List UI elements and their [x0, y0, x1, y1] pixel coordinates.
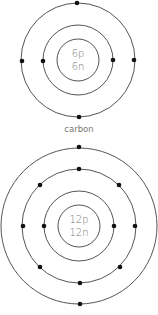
carbon-shell-1 — [43, 25, 113, 95]
electron — [38, 265, 43, 270]
electron — [118, 265, 123, 270]
bohr-diagrams: 6p 6n carbon 12p 12n — [0, 0, 158, 315]
electron — [111, 58, 116, 63]
magnesium-atom: 12p 12n — [1, 145, 157, 307]
magnesium-shell-1 — [44, 191, 114, 261]
electron — [41, 59, 46, 64]
carbon-nucleus — [57, 39, 99, 81]
electron — [38, 183, 43, 188]
electron — [133, 224, 138, 229]
electron — [78, 281, 83, 286]
carbon-shell-2 — [21, 3, 135, 117]
electron — [75, 1, 80, 6]
magnesium-nucleus — [58, 205, 100, 247]
electron — [117, 183, 122, 188]
magnesium-neutrons: 12n — [69, 227, 88, 238]
electron — [132, 58, 137, 63]
carbon-label: carbon — [64, 124, 93, 134]
carbon-protons: 6p — [72, 48, 85, 59]
electron — [77, 167, 82, 172]
carbon-neutrons: 6n — [72, 61, 85, 72]
electron — [78, 302, 83, 307]
magnesium-protons: 12p — [69, 214, 88, 225]
electron — [77, 115, 82, 120]
carbon-atom: 6p 6n carbon — [20, 1, 137, 134]
electron — [112, 224, 117, 229]
electron — [20, 59, 25, 64]
electron — [42, 224, 47, 229]
electron — [21, 224, 26, 229]
electron — [77, 145, 82, 150]
